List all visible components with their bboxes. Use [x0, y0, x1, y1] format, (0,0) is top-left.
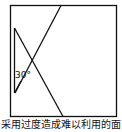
geometry-diagram: 30° — [0, 0, 122, 132]
caption-text: 采用过度造成难以利用的面 — [0, 118, 122, 132]
square-outline — [11, 6, 117, 117]
triangle-short-edge — [15, 81, 22, 93]
angle-label: 30° — [15, 70, 31, 80]
